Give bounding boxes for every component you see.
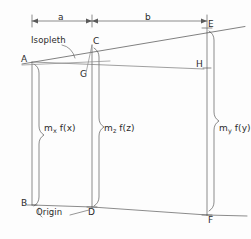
scale-label-y-tail: f(y)	[232, 123, 251, 133]
leader-origin-to-d	[70, 210, 89, 215]
scale-label-z-tail: f(z)	[116, 123, 134, 133]
origin-label: Origin	[36, 208, 62, 217]
point-label-G: G	[80, 70, 87, 79]
point-label-B: B	[21, 199, 27, 208]
scale-label-y-m: m	[219, 123, 228, 133]
baseline-df	[92, 207, 207, 215]
point-label-F: F	[208, 216, 213, 225]
arrowhead-a-right	[86, 19, 92, 24]
nomogram-diagram: a b Isopleth Origin A B C D E F G H mx f…	[0, 0, 251, 239]
scale-label-x: mx f(x)	[44, 124, 76, 133]
point-label-H: H	[196, 60, 203, 69]
isopleth-line	[22, 27, 245, 65]
scale-label-y-sub: y	[228, 127, 232, 135]
scale-label-z-sub: z	[113, 127, 117, 135]
scale-label-z: mz f(z)	[104, 124, 135, 133]
scale-label-x-tail: f(x)	[57, 123, 76, 133]
scale-label-y: my f(y)	[219, 124, 251, 133]
point-label-D: D	[88, 208, 95, 217]
arrowhead-b-left	[92, 19, 98, 24]
isopleth-label: Isopleth	[31, 36, 66, 45]
scale-label-x-sub: x	[53, 127, 57, 135]
brace-y	[209, 31, 219, 211]
dimension-label-b: b	[145, 13, 151, 22]
point-label-C: C	[93, 37, 99, 46]
scale-label-z-m: m	[104, 123, 113, 133]
point-label-E: E	[208, 20, 214, 29]
point-label-A: A	[21, 55, 27, 64]
brace-x	[34, 64, 44, 206]
arrowhead-b-right	[201, 19, 207, 24]
scale-label-x-m: m	[44, 123, 53, 133]
arrowhead-a-left	[32, 19, 38, 24]
dimension-label-a: a	[58, 13, 64, 22]
brace-z	[94, 48, 104, 206]
